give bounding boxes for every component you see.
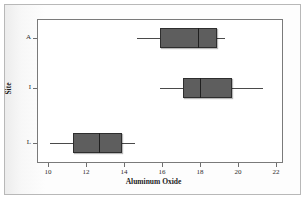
x-tick-label: 12 <box>76 168 96 176</box>
box-iqr-rect <box>183 78 232 98</box>
x-tick-label: 20 <box>228 168 248 176</box>
y-axis-label: Site <box>4 69 13 109</box>
x-tick-mark <box>86 163 87 167</box>
y-tick-mark <box>33 88 37 89</box>
x-tick-mark <box>124 163 125 167</box>
x-tick-label: 22 <box>266 168 286 176</box>
median-line <box>200 78 201 98</box>
y-tick-label: A <box>18 33 31 41</box>
x-axis-label: Aluminum Oxide <box>0 177 307 186</box>
y-tick-label: I <box>18 83 31 91</box>
x-tick-mark <box>162 163 163 167</box>
median-line <box>99 133 100 153</box>
x-tick-label: 18 <box>190 168 210 176</box>
x-tick-label: 16 <box>152 168 172 176</box>
whisker-high <box>232 88 262 89</box>
x-tick-mark <box>48 163 49 167</box>
y-tick-mark <box>33 38 37 39</box>
x-tick-mark <box>238 163 239 167</box>
boxplot-figure: 10121416182022 AIL Aluminum Oxide Site <box>0 0 307 202</box>
x-tick-label: 14 <box>114 168 134 176</box>
box-iqr-rect <box>73 133 122 153</box>
whisker-low <box>137 38 160 39</box>
y-tick-label: L <box>18 138 31 146</box>
x-tick-mark <box>200 163 201 167</box>
y-tick-mark <box>33 143 37 144</box>
whisker-high <box>122 143 135 144</box>
whisker-low <box>50 143 73 144</box>
whisker-high <box>217 38 225 39</box>
box-iqr-rect <box>160 28 217 48</box>
x-tick-label: 10 <box>38 168 58 176</box>
whisker-low <box>160 88 183 89</box>
median-line <box>198 28 199 48</box>
x-tick-mark <box>276 163 277 167</box>
